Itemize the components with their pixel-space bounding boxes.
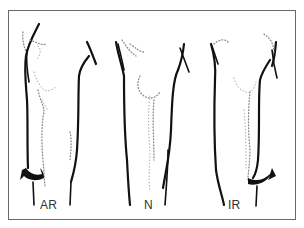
panel-n-drawing [116,40,189,205]
panel-ar-drawing [20,24,96,205]
panel-ir-drawing [211,34,277,206]
label-ir: IR [228,198,240,212]
leg-rotation-diagram [0,0,304,228]
label-n: N [144,198,153,212]
rotation-arrow-right-icon [248,168,276,185]
rotation-arrow-left-icon [20,168,44,180]
label-ar: AR [40,198,57,212]
